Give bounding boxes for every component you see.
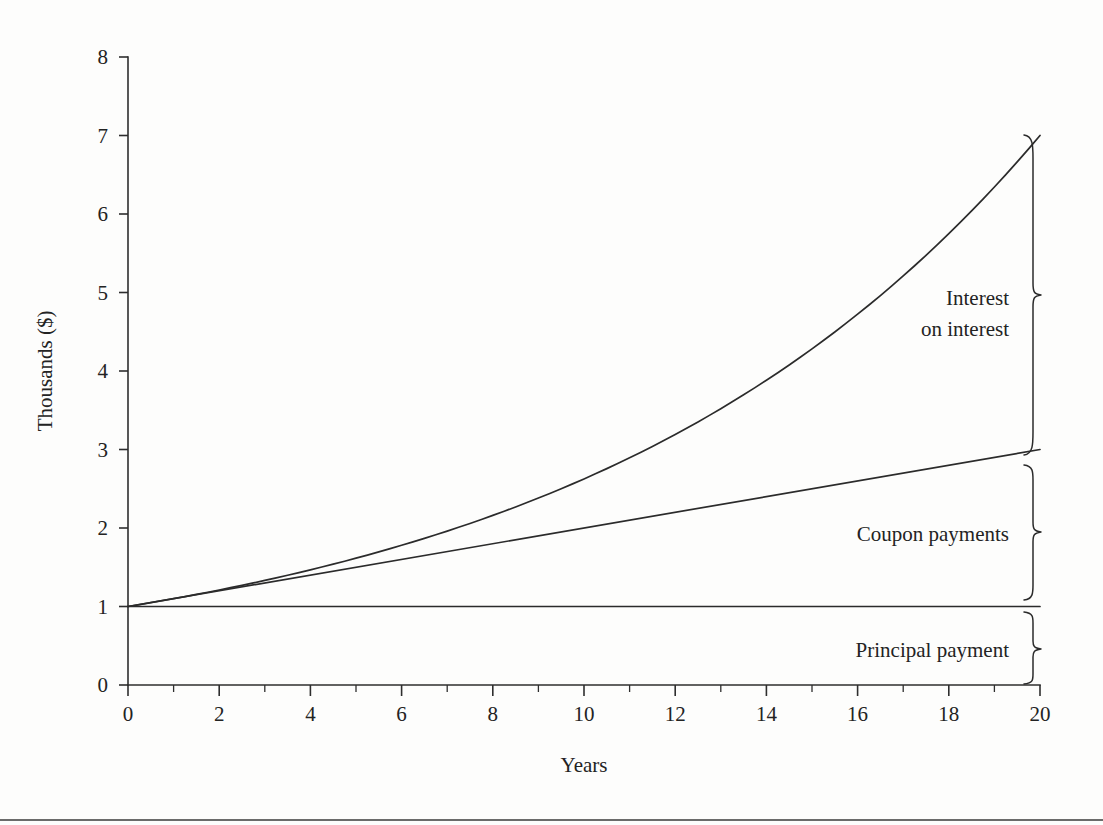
- annotation-braces: [1024, 135, 1041, 684]
- annotation-label-principal-payment: Principal payment: [856, 638, 1010, 662]
- x-tick-label: 20: [1030, 702, 1051, 726]
- x-tick-label: 14: [756, 702, 778, 726]
- y-tick-label: 5: [98, 281, 109, 305]
- y-tick-label: 7: [98, 124, 109, 148]
- x-tick-label: 16: [847, 702, 868, 726]
- annotation-label-coupon-payments: Coupon payments: [857, 522, 1009, 546]
- chart-page: 012345678 02468101214161820 Thousands ($…: [0, 0, 1103, 825]
- brace-interest-on-interest: [1024, 135, 1041, 455]
- y-tick-label: 2: [98, 516, 109, 540]
- x-tick-label: 10: [574, 702, 595, 726]
- annotation-label-interest-on-interest-line2: on interest: [921, 317, 1009, 341]
- x-tick-label: 18: [938, 702, 959, 726]
- x-tick-label: 8: [488, 702, 499, 726]
- brace-principal-payment: [1024, 612, 1041, 684]
- y-tick-label: 4: [98, 359, 109, 383]
- y-axis-title: Thousands ($): [33, 311, 57, 432]
- y-tick-label: 3: [98, 438, 109, 462]
- y-tick-group: 012345678: [98, 45, 129, 697]
- y-tick-label: 6: [98, 202, 109, 226]
- x-tick-label: 0: [123, 702, 134, 726]
- x-tick-label: 12: [665, 702, 686, 726]
- brace-coupon-payments: [1024, 465, 1041, 600]
- x-tick-label: 6: [396, 702, 407, 726]
- annotation-label-interest-on-interest-line1: Interest: [946, 286, 1009, 310]
- y-tick-label: 1: [98, 595, 109, 619]
- y-tick-label: 0: [98, 673, 109, 697]
- axis-group: [128, 57, 1040, 685]
- y-tick-label: 8: [98, 45, 109, 69]
- x-tick-label: 4: [305, 702, 316, 726]
- x-axis-title: Years: [561, 753, 608, 777]
- bond-return-decomposition-chart: 012345678 02468101214161820 Thousands ($…: [0, 0, 1103, 825]
- x-tick-label: 2: [214, 702, 225, 726]
- x-tick-group: 02468101214161820: [123, 685, 1051, 726]
